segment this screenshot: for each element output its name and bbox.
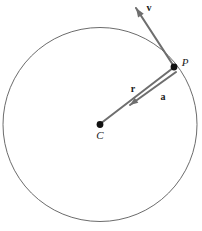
velocity-arrowhead-icon: [136, 8, 144, 17]
velocity-vector-line: [136, 8, 175, 68]
acceleration-vector-line: [130, 72, 176, 105]
center-point-label: C: [96, 129, 104, 141]
velocity-vector-label: v: [147, 2, 152, 13]
particle-point-label: P: [181, 56, 189, 68]
circular-motion-figure: C P v r a: [0, 0, 202, 231]
center-point-dot: [97, 121, 104, 128]
acceleration-vector-label: a: [161, 91, 166, 102]
particle-point-dot: [171, 64, 178, 71]
figure-canvas: C P v r a: [0, 0, 202, 231]
radius-vector-label: r: [131, 83, 136, 94]
